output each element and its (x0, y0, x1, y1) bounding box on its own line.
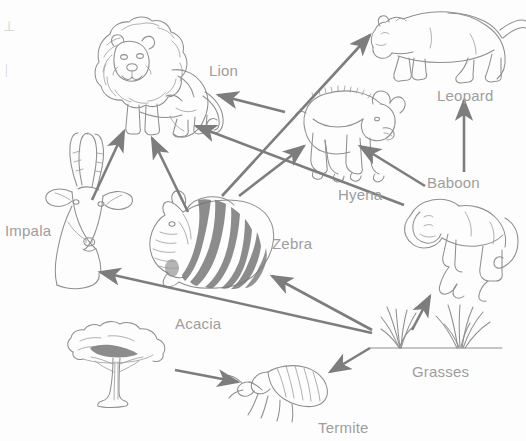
arrow-grasses-to-baboon (412, 296, 430, 330)
zebra-illustration (150, 191, 274, 289)
acacia-illustration (68, 322, 165, 408)
arrow-hyena-to-lion (218, 95, 285, 112)
arrow-grasses-to-termite (330, 348, 370, 372)
food-web-diagram: .ol { fill:none; stroke:#8f8f8f; stroke-… (0, 0, 526, 441)
arrow-zebra-to-lion (152, 138, 188, 212)
leopard-illustration (371, 12, 526, 83)
arrow-acacia-to-termite (175, 370, 238, 382)
label-grasses: Grasses (412, 363, 469, 380)
label-lion: Lion (209, 62, 238, 79)
lion-illustration (95, 17, 223, 137)
impala-illustration (46, 133, 133, 289)
arrow-baboon-to-hyena (360, 146, 425, 186)
baboon-illustration (405, 199, 518, 301)
page-edge-mark-bottom: | (5, 62, 8, 78)
grasses-illustration (370, 305, 502, 348)
label-baboon: Baboon (427, 174, 480, 191)
label-impala: Impala (5, 222, 51, 239)
arrow-impala-to-lion (92, 131, 124, 200)
label-hyena: Hyena (338, 186, 382, 203)
label-acacia: Acacia (175, 315, 221, 332)
termite-illustration (225, 366, 327, 422)
label-zebra: Zebra (272, 235, 312, 252)
label-termite: Termite (318, 419, 369, 436)
arrow-impala-to-leopard (222, 35, 370, 196)
label-leopard: Leopard (437, 87, 493, 104)
page-edge-mark-top: ⊥ (3, 18, 15, 35)
